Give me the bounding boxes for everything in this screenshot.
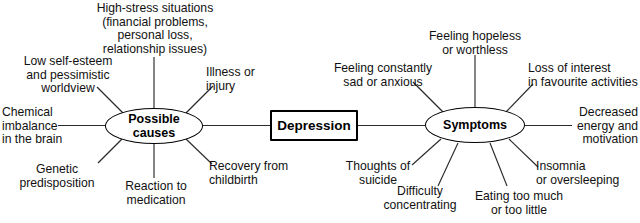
leaf-difficulty-concentrating: Difficulty concentrating [370,185,470,212]
node-possible-causes-label: Possible causes [128,112,179,140]
edge-symptoms-difficulty [438,143,458,186]
node-possible-causes[interactable]: Possible causes [105,108,203,144]
leaf-high-stress-situations: High-stress situations (financial proble… [80,2,230,56]
node-symptoms-label: Symptoms [443,118,507,132]
edge-symptoms-insomnia [509,139,538,167]
leaf-genetic-predisposition: Genetic predisposition [8,163,106,190]
leaf-recovery-from-childbirth: Recovery from childbirth [209,160,309,187]
node-symptoms[interactable]: Symptoms [425,107,525,143]
leaf-insomnia-oversleeping: Insomnia or oversleeping [536,160,640,187]
leaf-feeling-sad-anxious: Feeling constantly sad or anxious [322,62,444,89]
leaf-loss-of-interest: Loss of interest in favourite activities [528,62,640,89]
edge-symptoms-eating [490,143,507,186]
leaf-reaction-to-medication: Reaction to medication [110,180,202,207]
leaf-illness-or-injury: Illness or injury [206,66,284,93]
node-depression[interactable]: Depression [270,110,358,141]
leaf-low-self-esteem: Low self-esteem and pessimistic worldvie… [13,55,123,96]
leaf-eating-too-much: Eating too much or too little [464,190,574,217]
node-depression-label: Depression [277,119,351,133]
leaf-decreased-energy: Decreased energy and motivation [560,106,638,147]
edge-causes-genetic [98,139,122,163]
depression-mind-map-diagram: Possible causes Depression Symptoms High… [0,0,640,223]
leaf-feeling-hopeless: Feeling hopeless or worthless [413,30,537,57]
leaf-chemical-imbalance: Chemical imbalance in the brain [2,106,72,147]
